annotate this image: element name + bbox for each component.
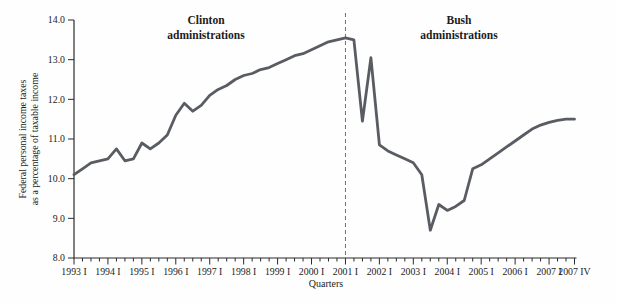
y-axis-tick-label: 10.0 <box>48 173 65 184</box>
x-axis-tick-label: 1996 I <box>163 266 188 277</box>
x-axis-tick-label: 2005 I <box>469 266 494 277</box>
y-axis-title: Federal personal income taxes as a perce… <box>17 73 40 205</box>
y-axis-tick-label: 14.0 <box>48 14 65 25</box>
x-axis-tick-label: 2000 I <box>299 266 324 277</box>
y-axis-tick-label: 11.0 <box>48 133 65 144</box>
tax-percentage-series-line <box>74 38 575 230</box>
y-axis-tick-label: 9.0 <box>53 213 65 224</box>
x-axis-tick-label: 1993 I <box>61 266 86 277</box>
x-axis-tick-label: 1999 I <box>265 266 290 277</box>
clinton-administrations-annotation: Clinton administrations <box>167 13 244 42</box>
clinton-annotation-line1: Clinton <box>167 13 244 28</box>
line-chart-canvas: 8.09.010.011.012.013.014.01993 I1994 I19… <box>0 0 617 303</box>
x-axis-title: Quarters <box>309 278 343 289</box>
y-axis-title-line2: as a percentage of taxable income <box>28 73 40 205</box>
x-axis-tick-label: 1997 I <box>197 266 222 277</box>
y-axis-title-line1: Federal personal income taxes <box>17 73 29 205</box>
x-axis-tick-label: 2001 I <box>333 266 358 277</box>
x-axis-tick-label: 2004 I <box>435 266 460 277</box>
x-axis-tick-label: 2007 IV <box>558 266 590 277</box>
x-axis-tick-label: 2003 I <box>401 266 426 277</box>
x-axis-tick-label: 1994 I <box>95 266 120 277</box>
y-axis-tick-label: 8.0 <box>53 252 65 263</box>
clinton-annotation-line2: administrations <box>167 28 244 43</box>
y-axis-tick-label: 12.0 <box>48 94 65 105</box>
bush-annotation-line2: administrations <box>420 28 497 43</box>
x-axis-tick-label: 2002 I <box>367 266 392 277</box>
x-axis-tick-label: 1998 I <box>231 266 256 277</box>
tax-rate-figure: 8.09.010.011.012.013.014.01993 I1994 I19… <box>0 0 617 303</box>
bush-administrations-annotation: Bush administrations <box>420 13 497 42</box>
axis-spine <box>74 20 577 258</box>
x-axis-tick-label: 2006 I <box>502 266 527 277</box>
bush-annotation-line1: Bush <box>420 13 497 28</box>
x-axis-tick-label: 1995 I <box>129 266 154 277</box>
y-axis-tick-label: 13.0 <box>48 54 65 65</box>
